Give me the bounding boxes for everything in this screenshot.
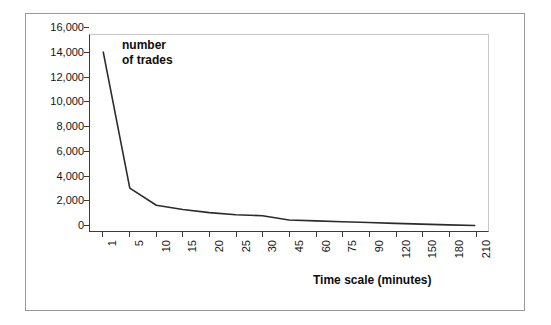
x-axis-tick-label: 30 — [266, 240, 278, 252]
x-axis-tick-mark — [396, 232, 397, 237]
x-axis-tick-label: 10 — [160, 240, 172, 252]
series-annotation-line-1: number — [122, 38, 173, 53]
x-axis-tick-mark — [316, 232, 317, 237]
y-axis-tick-label: 16,000 — [50, 21, 84, 33]
chart-figure: 02,0004,0006,0008,00010,00012,00014,0001… — [0, 0, 551, 325]
y-axis-tick-label: 10,000 — [50, 95, 84, 107]
series-annotation: number of trades — [122, 38, 173, 68]
y-axis-tick-mark — [84, 27, 89, 28]
x-axis-tick-mark — [156, 232, 157, 237]
x-axis-title: Time scale (minutes) — [313, 273, 432, 287]
x-axis-tick-mark — [476, 232, 477, 237]
x-axis-tick-label: 1 — [106, 240, 118, 246]
x-axis-tick-label: 120 — [400, 240, 412, 258]
x-axis-tick-mark — [449, 232, 450, 237]
y-axis-tick-label: 14,000 — [50, 46, 84, 58]
x-axis-tick-mark — [129, 232, 130, 237]
x-axis-tick-label: 180 — [453, 240, 465, 258]
series-annotation-line-2: of trades — [122, 53, 173, 68]
x-axis-tick-label: 90 — [373, 240, 385, 252]
y-axis-tick-label: 12,000 — [50, 71, 84, 83]
y-axis-tick-label: 2,000 — [56, 194, 84, 206]
x-axis-tick-mark — [102, 232, 103, 237]
y-axis-tick-label: 6,000 — [56, 145, 84, 157]
x-axis-tick-label: 25 — [240, 240, 252, 252]
y-axis-tick-label: 4,000 — [56, 170, 84, 182]
x-axis-tick-mark — [289, 232, 290, 237]
x-axis-tick-mark — [422, 232, 423, 237]
x-axis-tick-mark — [209, 232, 210, 237]
x-axis-tick-label: 150 — [426, 240, 438, 258]
x-axis-tick-label: 60 — [320, 240, 332, 252]
x-axis-tick-mark — [182, 232, 183, 237]
x-axis-tick-mark — [342, 232, 343, 237]
x-axis-tick-mark — [262, 232, 263, 237]
series-line-number-of-trades — [103, 52, 474, 225]
x-axis-tick-label: 5 — [133, 240, 145, 246]
chart-frame: 02,0004,0006,0008,00010,00012,00014,0001… — [25, 13, 525, 311]
x-axis-tick-label: 75 — [346, 240, 358, 252]
x-axis-tick-label: 210 — [480, 240, 492, 258]
x-axis-tick-label: 15 — [186, 240, 198, 252]
x-axis-tick-mark — [369, 232, 370, 237]
x-axis-tick-label: 20 — [213, 240, 225, 252]
x-axis-tick-mark — [236, 232, 237, 237]
y-axis-tick-label: 8,000 — [56, 120, 84, 132]
x-axis-tick-label: 45 — [293, 240, 305, 252]
